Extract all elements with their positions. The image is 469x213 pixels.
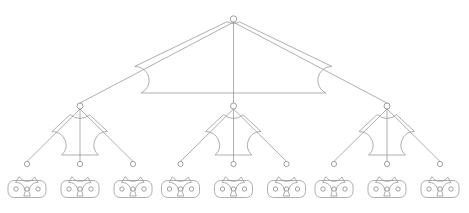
leaf-node-circle-2[interactable] <box>77 161 82 166</box>
terminal-node-8-2[interactable] <box>385 187 389 191</box>
terminal-node-9-1[interactable] <box>427 187 431 191</box>
terminal-node-3-1[interactable] <box>120 187 124 191</box>
terminal-node-6-3[interactable] <box>295 187 299 191</box>
terminal-node-1-2[interactable] <box>25 187 29 191</box>
terminal-node-5-2[interactable] <box>231 187 235 191</box>
terminal-node-3-3[interactable] <box>142 187 146 191</box>
terminal-node-7-2[interactable] <box>332 187 336 191</box>
terminal-node-7-1[interactable] <box>321 187 325 191</box>
terminal-node-7-3[interactable] <box>343 187 347 191</box>
edge-branch-to-leaf-6 <box>234 109 287 161</box>
terminal-node-1-3[interactable] <box>36 187 40 191</box>
edge-branch-to-leaf-1 <box>27 109 80 161</box>
leaf-node-circle-7[interactable] <box>331 161 336 166</box>
terminal-node-8-1[interactable] <box>374 187 378 191</box>
edge-root-to-branch-1 <box>80 22 234 103</box>
terminal-node-3-2[interactable] <box>131 187 135 191</box>
leaf-node-circle-3[interactable] <box>130 161 135 166</box>
leaf-node-circle-8[interactable] <box>384 161 389 166</box>
terminal-node-2-1[interactable] <box>67 187 71 191</box>
terminal-node-2-3[interactable] <box>89 187 93 191</box>
edge-branch-to-leaf-3 <box>80 109 133 161</box>
terminal-node-5-3[interactable] <box>242 187 246 191</box>
leaf-node-circle-1[interactable] <box>24 161 29 166</box>
edge-branch-to-leaf-9 <box>387 109 440 161</box>
terminal-node-2-2[interactable] <box>78 187 82 191</box>
edge-root-to-branch-3 <box>234 22 388 103</box>
terminal-node-6-1[interactable] <box>273 187 277 191</box>
branch-node-circle-2[interactable] <box>231 103 237 109</box>
terminal-node-6-2[interactable] <box>284 187 288 191</box>
terminal-node-9-2[interactable] <box>438 187 442 191</box>
terminal-node-5-1[interactable] <box>220 187 224 191</box>
edge-layer <box>27 22 440 161</box>
terminal-node-9-3[interactable] <box>449 187 453 191</box>
terminal-node-4-3[interactable] <box>189 187 193 191</box>
leaf-node-circle-5[interactable] <box>231 161 236 166</box>
leaf-node-circle-6[interactable] <box>284 161 289 166</box>
terminal-node-1-1[interactable] <box>14 187 18 191</box>
branch-node-circle-1[interactable] <box>77 103 83 109</box>
edge-branch-to-leaf-4 <box>181 109 234 161</box>
terminal-node-4-1[interactable] <box>167 187 171 191</box>
tree-diagram-svg <box>0 0 469 213</box>
terminal-node-4-2[interactable] <box>178 187 182 191</box>
leaf-node-circle-4[interactable] <box>178 161 183 166</box>
root-node-circle[interactable] <box>230 16 236 22</box>
terminal-node-8-3[interactable] <box>396 187 400 191</box>
tree-diagram-canvas <box>0 0 469 213</box>
branch-node-circle-3[interactable] <box>384 103 390 109</box>
leaf-node-circle-9[interactable] <box>437 161 442 166</box>
edge-branch-to-leaf-7 <box>334 109 387 161</box>
